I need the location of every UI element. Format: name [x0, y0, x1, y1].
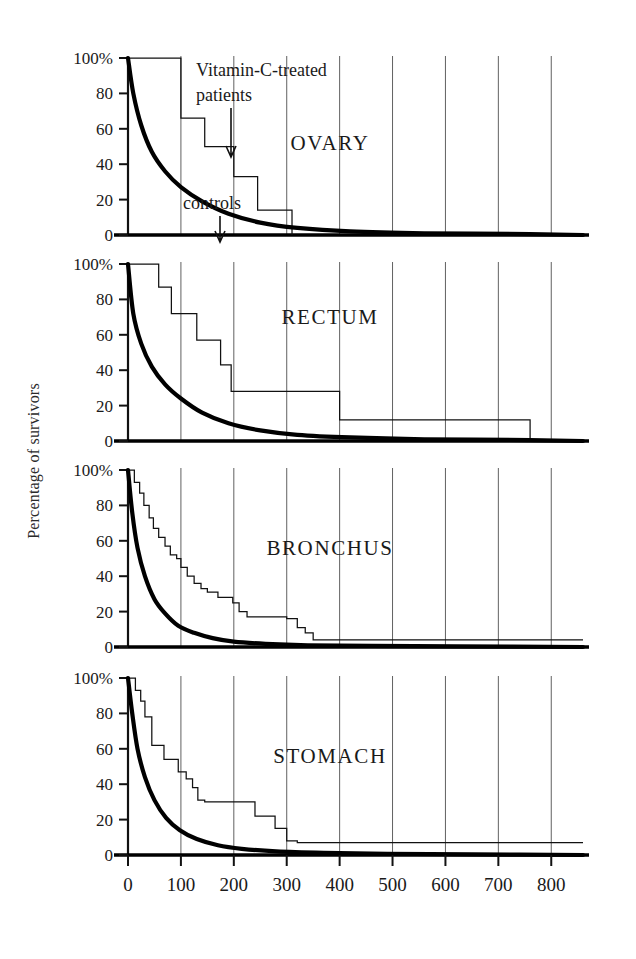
x-tick-label-0: 0: [123, 874, 133, 895]
y-tick-label-40: 40: [96, 155, 113, 174]
y-tick-label-60: 60: [96, 532, 113, 551]
panel-rectum: 020406080100%RECTUM: [73, 255, 589, 451]
x-tick-label-100: 100: [167, 874, 196, 895]
y-tick-label-60: 60: [96, 120, 113, 139]
x-tick-label-800: 800: [537, 874, 566, 895]
x-tick-label-400: 400: [325, 874, 354, 895]
panel-ovary: 020406080100%OVARY: [73, 49, 589, 245]
panel-title-rectum: RECTUM: [281, 305, 378, 329]
x-tick-label-300: 300: [272, 874, 301, 895]
y-tick-label-0: 0: [105, 846, 114, 865]
controls-annotation: controls: [183, 193, 241, 213]
y-tick-label-0: 0: [105, 226, 114, 245]
y-tick-label-0: 0: [105, 638, 114, 657]
y-tick-label-100: 100%: [73, 669, 113, 688]
controls-annotation-arrow: [215, 216, 225, 242]
treated-annotation-arrow: [226, 108, 236, 157]
y-tick-label-20: 20: [96, 191, 113, 210]
panel-stomach: 020406080100%STOMACH: [73, 669, 589, 865]
y-tick-label-60: 60: [96, 326, 113, 345]
y-tick-label-40: 40: [96, 775, 113, 794]
y-tick-label-60: 60: [96, 740, 113, 759]
panel-title-bronchus: BRONCHUS: [266, 536, 393, 560]
x-tick-label-600: 600: [431, 874, 460, 895]
treated-annotation-line2: patients: [196, 85, 252, 105]
treated-annotation-line1: Vitamin-C-treated: [196, 60, 327, 80]
x-tick-label-200: 200: [220, 874, 249, 895]
y-tick-label-0: 0: [105, 432, 114, 451]
x-tick-label-700: 700: [484, 874, 513, 895]
y-tick-label-80: 80: [96, 496, 113, 515]
y-axis-label: Percentage of survivors: [25, 331, 43, 591]
y-tick-label-20: 20: [96, 397, 113, 416]
y-tick-label-20: 20: [96, 603, 113, 622]
y-tick-label-40: 40: [96, 361, 113, 380]
x-axis-group: 0100200300400500600700800: [123, 855, 565, 895]
y-tick-label-100: 100%: [73, 461, 113, 480]
y-tick-label-80: 80: [96, 84, 113, 103]
y-tick-label-100: 100%: [73, 255, 113, 274]
y-tick-label-40: 40: [96, 567, 113, 586]
survival-curves-figure: Percentage of survivors 020406080100%OVA…: [0, 0, 636, 959]
panel-bronchus: 020406080100%BRONCHUS: [73, 461, 589, 657]
x-tick-label-500: 500: [378, 874, 407, 895]
chart-canvas: 020406080100%OVARY020406080100%RECTUM020…: [0, 0, 636, 959]
y-tick-label-80: 80: [96, 704, 113, 723]
y-tick-label-80: 80: [96, 290, 113, 309]
y-tick-label-100: 100%: [73, 49, 113, 68]
y-tick-label-20: 20: [96, 811, 113, 830]
control-curve: [128, 264, 583, 441]
treated-step-curve: [128, 264, 530, 441]
panel-title-stomach: STOMACH: [273, 744, 387, 768]
panel-title-ovary: OVARY: [291, 131, 370, 155]
